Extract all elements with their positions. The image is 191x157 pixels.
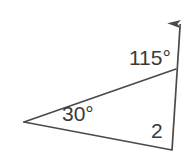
geometry-figure: 115° 30° 2 (0, 0, 191, 157)
triangle-upper-side (24, 69, 176, 122)
angle-label-30: 30° (62, 103, 94, 124)
angle-label-115: 115° (129, 47, 171, 68)
triangle-lower-side (24, 122, 172, 150)
right-side-ray (172, 24, 180, 150)
angle-label-2: 2 (151, 120, 163, 141)
